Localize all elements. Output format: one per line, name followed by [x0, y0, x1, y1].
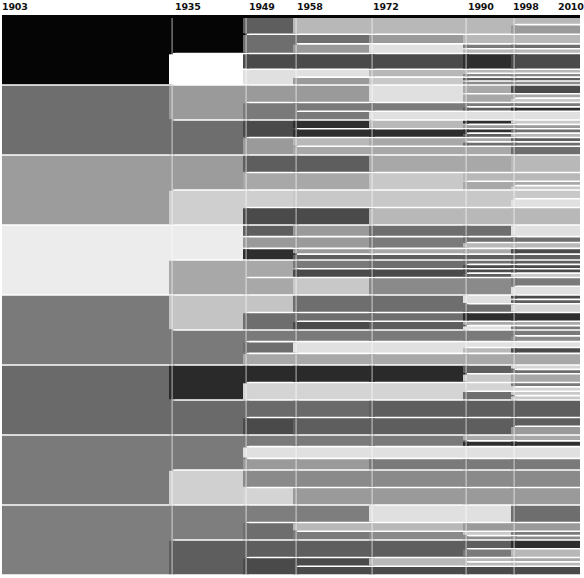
band-segment	[515, 25, 580, 33]
band-segment	[297, 156, 373, 172]
band-segment	[515, 70, 580, 72]
band-segment	[515, 138, 580, 141]
band-segment	[467, 35, 515, 43]
band-segment	[515, 342, 580, 346]
band-segment	[515, 471, 580, 487]
band-segment	[515, 326, 580, 329]
band-segment	[515, 375, 580, 382]
band-segment	[173, 401, 247, 434]
band-segment	[515, 536, 580, 539]
band-segment	[297, 354, 373, 364]
band-segment	[247, 313, 297, 329]
band-segment	[173, 156, 247, 189]
band-segment	[515, 337, 580, 341]
band-segment	[515, 354, 580, 364]
band-segment	[297, 459, 373, 469]
band-segment	[467, 274, 515, 277]
band-segment	[173, 226, 247, 259]
band-segment	[247, 208, 297, 224]
band-segment	[297, 270, 373, 277]
band-segment	[173, 471, 247, 504]
band-segment	[297, 78, 373, 84]
band-segment	[297, 313, 373, 320]
band-segment	[247, 173, 297, 189]
band-segment	[467, 182, 515, 189]
band-segment	[467, 191, 515, 207]
band-segment	[373, 86, 467, 102]
band-segment	[467, 322, 515, 325]
band-segment	[515, 278, 580, 285]
band-segment	[297, 383, 373, 399]
band-segment	[515, 147, 580, 154]
band-segment	[467, 392, 515, 399]
band-segment	[247, 541, 297, 557]
band-segment	[247, 70, 297, 84]
band-segment	[373, 532, 467, 539]
band-segment	[515, 173, 580, 180]
band-segment	[515, 396, 580, 399]
band-segment	[373, 121, 467, 128]
band-segment	[467, 418, 515, 434]
band-segment	[373, 249, 467, 253]
band-segment	[467, 16, 515, 34]
band-segment	[297, 541, 373, 557]
band-segment	[247, 488, 297, 504]
band-segment	[515, 506, 580, 522]
band-segment	[515, 418, 580, 425]
band-segment	[515, 249, 580, 253]
band-segment	[247, 296, 297, 312]
band-segment	[467, 375, 515, 382]
band-segment	[247, 558, 297, 574]
band-segment	[247, 54, 297, 68]
band-segment	[373, 78, 467, 84]
band-segment	[467, 103, 515, 106]
band-segment	[467, 567, 515, 574]
band-segment	[515, 567, 580, 574]
band-segment	[247, 16, 297, 34]
band-segment	[373, 226, 467, 236]
band-segment	[515, 370, 580, 373]
band-segment	[515, 82, 580, 84]
band-segment	[467, 348, 515, 352]
band-segment	[467, 536, 515, 539]
band-segment	[515, 99, 580, 102]
band-segment	[297, 558, 373, 565]
band-segment	[297, 249, 373, 253]
band-segment	[515, 143, 580, 146]
band-segment	[297, 130, 373, 137]
band-segment	[515, 95, 580, 98]
band-segment	[467, 173, 515, 180]
band-segment	[247, 138, 297, 154]
band-segment	[515, 191, 580, 198]
band-segment	[515, 305, 580, 312]
band-segment	[247, 226, 297, 236]
band-segment	[515, 226, 580, 236]
band-segment	[247, 249, 297, 259]
band-segment	[297, 208, 373, 224]
band-segment	[373, 354, 467, 364]
band-segment	[467, 86, 515, 93]
band-segment	[515, 86, 580, 93]
band-segment	[297, 296, 373, 312]
band-segment	[297, 261, 373, 268]
band-segment	[515, 313, 580, 320]
band-segment	[515, 558, 580, 561]
band-segment	[297, 366, 373, 382]
band-segment	[467, 342, 515, 346]
band-segment	[373, 488, 467, 504]
band-segment	[467, 383, 515, 390]
band-segment	[373, 471, 467, 487]
band-segment	[173, 191, 247, 224]
band-segment	[467, 226, 515, 236]
band-segment	[467, 143, 515, 146]
band-segment	[515, 388, 580, 391]
band-segment	[467, 78, 515, 80]
band-segment	[373, 331, 467, 341]
band-segment	[373, 541, 467, 557]
band-segment	[467, 208, 515, 224]
band-segment	[373, 313, 467, 320]
band-segment	[515, 366, 580, 369]
band-segment	[373, 35, 467, 43]
band-segment	[515, 532, 580, 535]
band-segment	[467, 447, 515, 457]
